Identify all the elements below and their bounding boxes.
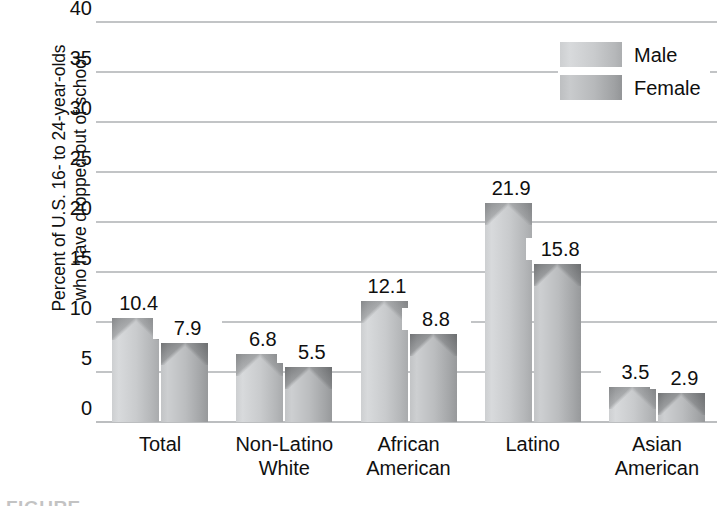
bar-top-bevel [236, 354, 283, 376]
bar-bevel-right [309, 367, 333, 389]
bar-male-2 [361, 301, 408, 422]
y-tick-label-15: 15 [58, 248, 92, 268]
value-label-male-2: 12.1 [353, 275, 422, 297]
bar-female-0 [161, 343, 208, 422]
x-label-line-1: Non-Latino [235, 433, 333, 455]
bar-top-bevel [285, 367, 332, 389]
legend-label-male: Male [634, 45, 677, 65]
bar-top-bevel [658, 393, 705, 415]
bar-bevel-left [361, 301, 385, 323]
bar-top-bevel [161, 343, 208, 365]
y-tick-label-40: 40 [58, 0, 92, 18]
bar-bevel-right [681, 393, 705, 415]
y-tick-label-25: 25 [58, 148, 92, 168]
bar-top-bevel [112, 318, 159, 340]
bar-top-bevel [361, 301, 408, 323]
y-tick-label-10: 10 [58, 298, 92, 318]
y-tick-label-35: 35 [58, 48, 92, 68]
legend-entry-female: Female [560, 71, 708, 104]
x-axis-category-labels: TotalNon-LatinoWhiteAfricanAmericanLatin… [96, 432, 717, 494]
legend-label-female: Female [634, 78, 701, 98]
bar-bevel-right [632, 387, 656, 409]
female-swatch-icon [560, 75, 622, 100]
y-tick-label-5: 5 [58, 348, 92, 368]
x-label-line-1: Latino [505, 433, 560, 455]
bar-bevel-left [658, 393, 682, 415]
value-label-male-0: 10.4 [104, 292, 173, 314]
y-tick-label-0: 0 [58, 398, 92, 418]
y-tick-label-30: 30 [58, 98, 92, 118]
bar-bevel-left [161, 343, 185, 365]
chart-legend: Male Female [558, 34, 710, 110]
bar-top-bevel [534, 264, 581, 286]
bar-bevel-right [433, 334, 457, 356]
bar-bevel-left [485, 203, 509, 225]
y-tick-label-20: 20 [58, 198, 92, 218]
bar-top-bevel [609, 387, 656, 409]
y-axis-tick-labels: 0510152025303540 [52, 0, 92, 423]
value-label-female-3: 15.8 [526, 238, 595, 260]
bar-bevel-left [410, 334, 434, 356]
x-label-4: AsianAmerican [577, 432, 717, 481]
bar-female-4 [658, 393, 705, 422]
value-label-female-1: 5.5 [277, 341, 346, 363]
x-label-line-1: Asian [632, 433, 682, 455]
bar-body [485, 203, 532, 422]
bar-male-4 [609, 387, 656, 422]
legend-entry-male: Male [560, 38, 708, 71]
bar-bevel-right [508, 203, 532, 225]
bar-bevel-left [609, 387, 633, 409]
value-label-female-2: 8.8 [402, 308, 471, 330]
bar-body [534, 264, 581, 422]
bar-bevel-right [557, 264, 581, 286]
bar-bevel-left [236, 354, 260, 376]
bar-top-bevel [485, 203, 532, 225]
x-label-line-2: American [577, 456, 717, 480]
x-label-line-1: African [377, 433, 439, 455]
bar-female-1 [285, 367, 332, 422]
bar-bevel-right [185, 343, 209, 365]
bar-male-0 [112, 318, 159, 422]
figure-caption: FIGURE [6, 497, 81, 506]
x-label-line-1: Total [139, 433, 181, 455]
chart-figure: Percent of U.S. 16- to 24-year-olds who … [0, 0, 717, 506]
value-label-female-0: 7.9 [153, 317, 222, 339]
value-label-male-3: 21.9 [477, 177, 546, 199]
bar-bevel-left [112, 318, 136, 340]
bar-top-bevel [410, 334, 457, 356]
bar-male-1 [236, 354, 283, 422]
bar-bevel-left [534, 264, 558, 286]
x-label-line-2: American [329, 456, 489, 480]
male-swatch-icon [560, 42, 622, 67]
value-label-female-4: 2.9 [650, 367, 717, 389]
bar-male-3 [485, 203, 532, 422]
bar-bevel-left [285, 367, 309, 389]
bar-female-2 [410, 334, 457, 422]
bar-female-3 [534, 264, 581, 422]
